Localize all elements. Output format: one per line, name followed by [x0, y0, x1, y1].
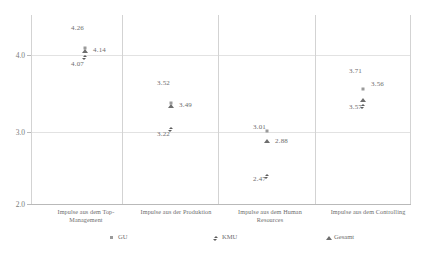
data-label-gesamt-3: 3.56	[371, 80, 384, 88]
plot-area: 4.26 4.14 4.07 3.52 3.49 3.22 3.01 2.88 …	[31, 15, 411, 204]
x-axis-category-2: Impulse aus dem Human Resources	[222, 208, 318, 224]
data-label-gu-0: 4.26	[71, 24, 84, 32]
y-tick-label-3: 3.0	[8, 128, 25, 137]
x-axis-category-3: Impulse aus dem Controlling	[318, 208, 418, 216]
y-tick-label-4: 4.0	[8, 51, 25, 60]
x-axis-category-2-line1: Impulse aus dem Human	[238, 208, 302, 215]
data-point-gesamt-0	[82, 49, 88, 53]
x-axis-category-0: Impulse aus dem Top- Management	[40, 208, 132, 224]
data-label-gesamt-0: 4.14	[93, 46, 106, 54]
legend-marker-gesamt-icon	[326, 236, 332, 240]
x-axis-category-0-line1: Impulse aus dem Top-	[58, 208, 115, 215]
gridline-vertical-4	[410, 15, 411, 204]
data-label-gu-3: 3.71	[349, 67, 362, 75]
data-point-gesamt-1	[168, 104, 174, 108]
legend-label-kmu: KMU	[222, 233, 237, 240]
data-label-gesamt-1: 3.49	[179, 101, 192, 109]
x-axis-category-1-line1: Impulse aus der Produktion	[141, 208, 212, 215]
gridline-vertical-1	[122, 15, 123, 204]
data-label-kmu-2: 2.47	[253, 175, 266, 183]
gridline-horizontal-4	[31, 55, 411, 56]
y-tick-label-2: 2.0	[8, 200, 25, 209]
data-label-kmu-0: 4.07	[71, 60, 84, 68]
gridline-vertical-2	[218, 15, 219, 204]
scatter-chart: 4.0 3.0 2.0 4.26 4.14 4.07 3.52 3.49 3.2…	[0, 0, 427, 254]
x-axis-category-1: Impulse aus der Produktion	[128, 208, 224, 216]
data-label-gesamt-2: 2.88	[275, 137, 288, 145]
data-point-kmu-0	[83, 55, 87, 57]
x-axis-category-3-line1: Impulse aus dem Controlling	[331, 208, 406, 215]
x-axis-category-2-line2: Resources	[257, 216, 283, 223]
chart-legend: GU KMU Gesamt	[0, 232, 427, 246]
data-label-gu-2: 3.01	[253, 123, 266, 131]
data-label-kmu-3: 3.57	[349, 103, 362, 111]
gridline-vertical-0	[31, 15, 32, 204]
legend-label-gesamt: Gesamt	[334, 233, 354, 240]
data-point-gesamt-2	[264, 139, 270, 143]
data-point-kmu-1	[169, 127, 173, 129]
data-label-kmu-1: 3.22	[157, 130, 170, 138]
data-point-gu-3	[362, 88, 365, 91]
data-point-gesamt-3	[360, 98, 366, 102]
x-axis-category-0-line2: Management	[69, 216, 102, 223]
legend-marker-gu-icon	[110, 236, 113, 239]
gridline-horizontal-3	[31, 132, 411, 133]
gridline-vertical-3	[315, 15, 316, 204]
data-label-gu-1: 3.52	[157, 79, 170, 87]
legend-label-gu: GU	[118, 233, 128, 240]
legend-marker-kmu-icon	[214, 236, 218, 238]
